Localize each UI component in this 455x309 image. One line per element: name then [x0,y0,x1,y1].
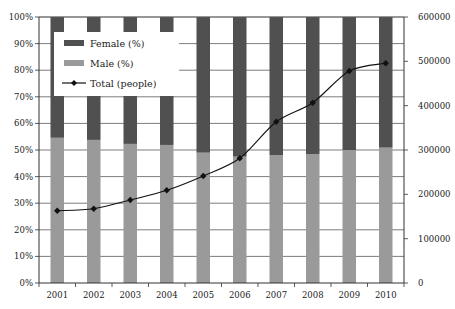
y2-tick-label: 600000 [418,12,450,22]
bar-male-2007 [269,155,283,283]
x-tick-label: 2010 [375,290,397,300]
y-tick-label: 10% [14,251,33,261]
chart: 0%10%20%30%40%50%60%70%80%90%100% 010000… [0,0,455,309]
y-tick-label: 90% [14,39,33,49]
x-tick-label: 2007 [265,290,287,300]
y-axis-left-ticks: 0%10%20%30%40%50%60%70%80%90%100% [9,12,39,288]
bar-male-2010 [379,148,393,283]
x-tick-label: 2001 [46,290,68,300]
x-tick-label: 2006 [229,290,251,300]
x-tick-label: 2008 [302,290,324,300]
bar-male-2008 [306,154,320,283]
legend-swatch [64,60,84,66]
x-tick-label: 2004 [156,290,178,300]
y2-tick-label: 300000 [418,145,450,155]
y2-tick-label: 100000 [418,234,450,244]
y2-tick-label: 200000 [418,189,450,199]
bar-male-2006 [233,157,247,283]
y-axis-right-ticks: 0100000200000300000400000500000600000 [404,12,450,288]
bar-female-2006 [233,17,247,157]
y-tick-label: 30% [14,198,33,208]
bar-male-2009 [342,150,356,283]
bar-female-2010 [379,17,393,148]
legend-swatch [64,40,84,46]
bar-male-2005 [196,153,210,283]
x-tick-label: 2002 [83,290,105,300]
y2-tick-label: 400000 [418,101,450,111]
bar-female-2008 [306,17,320,154]
x-tick-label: 2003 [119,290,141,300]
y2-tick-label: 500000 [418,56,450,66]
legend-label: Male (%) [90,58,134,69]
y-tick-label: 100% [9,12,33,22]
y-tick-label: 70% [14,92,33,102]
y-tick-label: 40% [14,172,33,182]
bar-male-2003 [123,144,137,283]
y2-tick-label: 0 [418,278,423,288]
legend: Female (%)Male (%)Total (people) [54,32,179,96]
bar-female-2009 [342,17,356,150]
x-tick-label: 2005 [192,290,214,300]
y-tick-label: 0% [20,278,34,288]
y-tick-label: 50% [14,145,33,155]
bar-female-2005 [196,17,210,153]
y-tick-label: 60% [14,118,33,128]
y-tick-label: 20% [14,225,33,235]
bar-male-2004 [160,145,174,283]
x-tick-label: 2009 [338,290,360,300]
legend-label: Total (people) [90,78,156,89]
y-tick-label: 80% [14,65,33,75]
legend-label: Female (%) [90,38,145,49]
x-axis-ticks: 2001200220032004200520062007200820092010 [39,283,404,300]
bar-female-2007 [269,17,283,155]
